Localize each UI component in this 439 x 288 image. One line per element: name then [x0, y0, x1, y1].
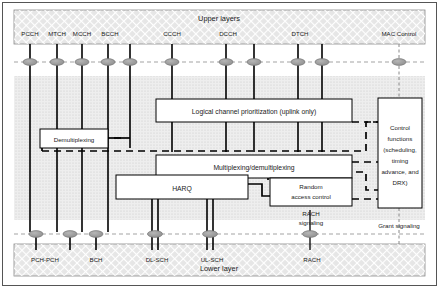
transport-channel-label-rach: RACH [303, 256, 320, 263]
logical-channel-label-dtch: DTCH [292, 30, 309, 37]
box-logical-channel-prioritization[interactable]: Logical channel prioritization (uplink o… [156, 99, 352, 122]
box-harq-label: HARQ [172, 185, 192, 193]
box-control-functions[interactable]: Control functions (scheduling, timing ad… [378, 98, 422, 208]
box-demultiplexing-label: Demultiplexing [54, 136, 95, 143]
box-ra-label-line1: Random [299, 183, 322, 190]
box-control-label-line5: advance, and [381, 168, 419, 175]
upper-layers-label: Upper layers [198, 14, 240, 23]
box-control-label-line2: functions [388, 135, 413, 142]
logical-channel-label-pcch: PCCH [21, 30, 38, 37]
box-control-label-line3: (scheduling, [383, 146, 417, 153]
box-demultiplexing[interactable]: Demultiplexing [40, 129, 108, 148]
box-control-label-line4: timing [392, 157, 409, 164]
box-random-access-control[interactable]: Random access control [270, 178, 352, 206]
box-harq[interactable]: HARQ [116, 175, 248, 199]
grant-signaling-label: Grant signaling [378, 222, 420, 229]
box-ra-label-line2: access control [291, 193, 331, 200]
annotation-grant-signaling: Grant signaling [378, 222, 420, 229]
box-control-label-line6: DRX) [392, 179, 407, 186]
transport-channel-label-pch: PCH-PCH [31, 256, 59, 263]
logical-channel-label-ccch: CCCH [163, 30, 181, 37]
rach-signaling-label-line2: signaling [299, 219, 324, 226]
transport-channel-label-bch: BCH [90, 256, 103, 263]
upper-layers-band: Upper layers [14, 10, 425, 44]
lower-layer-label: Lower layer [200, 264, 239, 273]
rach-signaling-label-line1: RACH [302, 210, 320, 217]
logical-channel-label-mcch: MCCH [73, 30, 91, 37]
mac-architecture-diagram: Upper layers Lower layer [0, 0, 439, 288]
diagram-canvas: Upper layers Lower layer [0, 0, 439, 288]
logical-channel-label-mac-control: MAC Control [382, 30, 417, 37]
logical-channel-label-mtch: MTCH [48, 30, 66, 37]
upper-sap-nodes [23, 59, 406, 66]
logical-channel-label-dcch: DCCH [219, 30, 237, 37]
box-control-label-line1: Control [390, 124, 410, 131]
logical-channel-label-bcch: BCCH [101, 30, 118, 37]
box-lcp-label: Logical channel prioritization (uplink o… [192, 108, 316, 116]
box-mux-demux-label: Multiplexing/demultiplexing [213, 164, 294, 172]
transport-channel-label-dl-sch: DL-SCH [146, 256, 169, 263]
transport-channel-label-ul-sch: UL-SCH [201, 256, 224, 263]
